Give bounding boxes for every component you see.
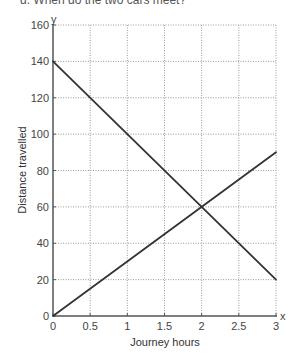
x-axis-letter: x bbox=[280, 310, 286, 322]
y-tick-label: 80 bbox=[37, 165, 49, 177]
series-line-1 bbox=[53, 152, 276, 316]
x-tick-label: 0 bbox=[50, 320, 56, 332]
x-axis-title: Journey hours bbox=[130, 336, 200, 348]
x-tick-label: 1.5 bbox=[157, 320, 172, 332]
line-chart: 00.511.522.53020406080100120140160 Journ… bbox=[0, 0, 294, 354]
x-tick-label: 2.5 bbox=[231, 320, 246, 332]
x-tick-label: 3 bbox=[273, 320, 279, 332]
y-tick-label: 20 bbox=[37, 274, 49, 286]
y-tick-label: 140 bbox=[31, 55, 49, 67]
y-tick-label: 40 bbox=[37, 237, 49, 249]
y-axis-letter: y bbox=[51, 13, 57, 25]
y-axis-title: Distance travelled bbox=[16, 126, 28, 213]
y-tick-label: 120 bbox=[31, 92, 49, 104]
y-tick-label: 160 bbox=[31, 19, 49, 31]
x-tick-label: 0.5 bbox=[83, 320, 98, 332]
y-tick-label: 0 bbox=[43, 310, 49, 322]
x-tick-label: 1 bbox=[124, 320, 130, 332]
tick-labels: 00.511.522.53020406080100120140160 bbox=[31, 19, 279, 332]
x-tick-label: 2 bbox=[199, 320, 205, 332]
y-tick-label: 100 bbox=[31, 128, 49, 140]
y-tick-label: 60 bbox=[37, 201, 49, 213]
